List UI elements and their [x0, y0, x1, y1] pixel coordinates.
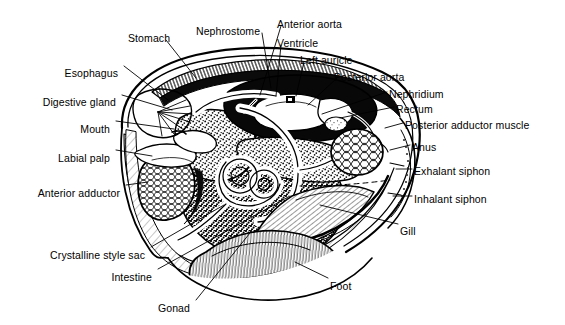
leader-stomach — [166, 40, 196, 78]
label-left-auricle: Left auricle — [300, 55, 353, 66]
leader-anus — [390, 145, 410, 150]
label-inhalant-siphon: Inhalant siphon — [414, 194, 487, 205]
label-anterior-adductor: Anterior adductor — [38, 188, 120, 199]
label-nephridium: Nephridium — [389, 89, 444, 100]
label-posterior-adductor-muscle: Posterior adductor muscle — [405, 120, 529, 131]
label-anterior-aorta: Anterior aorta — [277, 19, 342, 30]
anatomy-figure: StomachNephrostomeAnterior aortaVentricl… — [0, 0, 565, 325]
label-intestine: Intestine — [111, 272, 152, 283]
label-posterior-aorta: Posterior aorta — [334, 72, 404, 83]
label-stomach: Stomach — [128, 33, 170, 44]
leader-foot — [295, 262, 328, 278]
label-anus: Anus — [412, 142, 436, 153]
leader-posterior-adductor-muscle — [385, 123, 403, 128]
label-labial-palp: Labial palp — [58, 153, 110, 164]
label-gonad: Gonad — [158, 303, 190, 314]
label-gill: Gill — [400, 226, 416, 237]
label-esophagus: Esophagus — [65, 68, 118, 79]
label-rectum: Rectum — [396, 104, 433, 115]
label-ventricle: Ventricle — [277, 38, 318, 49]
label-exhalant-siphon: Exhalant siphon — [414, 166, 490, 177]
label-mouth: Mouth — [80, 124, 110, 135]
label-crystalline-style-sac: Crystalline style sac — [50, 250, 145, 261]
label-nephrostome: Nephrostome — [196, 26, 260, 37]
label-digestive-gland: Digestive gland — [43, 97, 116, 108]
label-foot: Foot — [330, 281, 351, 292]
